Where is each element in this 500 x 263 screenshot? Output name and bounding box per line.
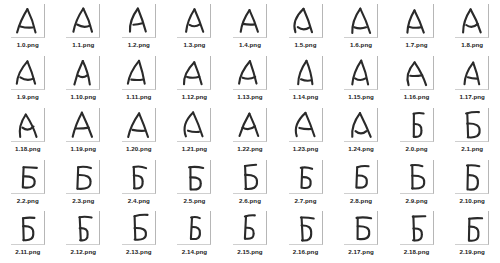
thumbnail-cell[interactable]: 2.8.png — [333, 157, 389, 208]
thumbnail-image[interactable] — [400, 108, 434, 142]
thumbnail-cell[interactable]: 2.13.png — [111, 208, 167, 263]
thumbnail-filename-label: 1.6.png — [350, 41, 372, 49]
thumbnail-cell[interactable]: 2.12.png — [56, 208, 112, 263]
thumbnail-cell[interactable]: 1.4.png — [222, 1, 278, 53]
handwritten-letter-icon — [400, 109, 432, 141]
thumbnail-image[interactable] — [455, 4, 489, 38]
thumbnail-cell[interactable]: 2.14.png — [167, 208, 223, 263]
thumbnail-cell[interactable]: 2.1.png — [444, 105, 500, 157]
thumbnail-cell[interactable]: 1.15.png — [333, 53, 389, 105]
thumbnail-image[interactable] — [11, 108, 45, 142]
thumbnail-image[interactable] — [177, 56, 211, 90]
thumbnail-image[interactable] — [66, 160, 100, 194]
thumbnail-cell[interactable]: 1.24.png — [333, 105, 389, 157]
thumbnail-image[interactable] — [344, 160, 378, 194]
thumbnail-cell[interactable]: 2.18.png — [389, 208, 445, 263]
thumbnail-filename-label: 2.6.png — [239, 197, 261, 205]
thumbnail-cell[interactable]: 2.5.png — [167, 157, 223, 208]
thumbnail-image[interactable] — [177, 211, 211, 245]
thumbnail-image[interactable] — [289, 160, 323, 194]
thumbnail-cell[interactable]: 1.1.png — [56, 1, 112, 53]
thumbnail-image[interactable] — [11, 211, 45, 245]
thumbnail-cell[interactable]: 2.19.png — [444, 208, 500, 263]
handwritten-letter-icon — [178, 5, 210, 37]
thumbnail-cell[interactable]: 2.0.png — [389, 105, 445, 157]
thumbnail-image[interactable] — [11, 4, 45, 38]
thumbnail-image[interactable] — [455, 211, 489, 245]
thumbnail-image[interactable] — [122, 108, 156, 142]
thumbnail-cell[interactable]: 1.23.png — [278, 105, 334, 157]
thumbnail-cell[interactable]: 1.21.png — [167, 105, 223, 157]
thumbnail-image[interactable] — [177, 4, 211, 38]
thumbnail-image[interactable] — [233, 4, 267, 38]
handwritten-letter-icon — [289, 212, 321, 244]
thumbnail-cell[interactable]: 1.14.png — [278, 53, 334, 105]
thumbnail-image[interactable] — [177, 160, 211, 194]
thumbnail-cell[interactable]: 1.2.png — [111, 1, 167, 53]
thumbnail-cell[interactable]: 2.4.png — [111, 157, 167, 208]
thumbnail-cell[interactable]: 1.11.png — [111, 53, 167, 105]
thumbnail-cell[interactable]: 2.17.png — [333, 208, 389, 263]
thumbnail-image[interactable] — [400, 4, 434, 38]
thumbnail-image[interactable] — [289, 211, 323, 245]
thumbnail-image[interactable] — [344, 56, 378, 90]
thumbnail-image[interactable] — [344, 4, 378, 38]
thumbnail-image[interactable] — [344, 211, 378, 245]
thumbnail-cell[interactable]: 1.10.png — [56, 53, 112, 105]
thumbnail-image[interactable] — [455, 108, 489, 142]
thumbnail-cell[interactable]: 1.5.png — [278, 1, 334, 53]
thumbnail-filename-label: 2.14.png — [182, 248, 208, 256]
thumbnail-image[interactable] — [400, 211, 434, 245]
thumbnail-cell[interactable]: 2.10.png — [444, 157, 500, 208]
thumbnail-cell[interactable]: 2.16.png — [278, 208, 334, 263]
thumbnail-image[interactable] — [455, 160, 489, 194]
thumbnail-cell[interactable]: 1.9.png — [0, 53, 56, 105]
thumbnail-cell[interactable]: 1.22.png — [222, 105, 278, 157]
thumbnail-cell[interactable]: 2.7.png — [278, 157, 334, 208]
thumbnail-image[interactable] — [122, 4, 156, 38]
thumbnail-image[interactable] — [122, 56, 156, 90]
handwritten-letter-icon — [289, 161, 321, 193]
thumbnail-image[interactable] — [289, 108, 323, 142]
thumbnail-filename-label: 1.5.png — [295, 41, 317, 49]
thumbnail-cell[interactable]: 1.19.png — [56, 105, 112, 157]
thumbnail-image[interactable] — [66, 4, 100, 38]
thumbnail-image[interactable] — [289, 56, 323, 90]
thumbnail-image[interactable] — [344, 108, 378, 142]
thumbnail-cell[interactable]: 1.3.png — [167, 1, 223, 53]
thumbnail-cell[interactable]: 1.17.png — [444, 53, 500, 105]
thumbnail-image[interactable] — [400, 56, 434, 90]
thumbnail-image[interactable] — [66, 108, 100, 142]
thumbnail-cell[interactable]: 2.9.png — [389, 157, 445, 208]
thumbnail-image[interactable] — [122, 160, 156, 194]
thumbnail-image[interactable] — [289, 4, 323, 38]
thumbnail-cell[interactable]: 2.2.png — [0, 157, 56, 208]
thumbnail-cell[interactable]: 1.16.png — [389, 53, 445, 105]
thumbnail-filename-label: 1.24.png — [348, 145, 374, 153]
thumbnail-image[interactable] — [11, 56, 45, 90]
thumbnail-cell[interactable]: 1.7.png — [389, 1, 445, 53]
thumbnail-cell[interactable]: 1.6.png — [333, 1, 389, 53]
thumbnail-image[interactable] — [400, 160, 434, 194]
thumbnail-cell[interactable]: 2.6.png — [222, 157, 278, 208]
thumbnail-cell[interactable]: 1.13.png — [222, 53, 278, 105]
thumbnail-cell[interactable]: 1.20.png — [111, 105, 167, 157]
thumbnail-cell[interactable]: 1.0.png — [0, 1, 56, 53]
thumbnail-image[interactable] — [233, 108, 267, 142]
thumbnail-image[interactable] — [122, 211, 156, 245]
thumbnail-image[interactable] — [233, 56, 267, 90]
thumbnail-cell[interactable]: 1.12.png — [167, 53, 223, 105]
thumbnail-image[interactable] — [233, 160, 267, 194]
thumbnail-cell[interactable]: 2.15.png — [222, 208, 278, 263]
thumbnail-image[interactable] — [11, 160, 45, 194]
thumbnail-image[interactable] — [66, 56, 100, 90]
thumbnail-image[interactable] — [66, 211, 100, 245]
thumbnail-image[interactable] — [177, 108, 211, 142]
thumbnail-image[interactable] — [233, 211, 267, 245]
thumbnail-cell[interactable]: 1.8.png — [444, 1, 500, 53]
thumbnail-cell[interactable]: 2.11.png — [0, 208, 56, 263]
thumbnail-filename-label: 2.2.png — [17, 197, 39, 205]
thumbnail-cell[interactable]: 1.18.png — [0, 105, 56, 157]
thumbnail-cell[interactable]: 2.3.png — [56, 157, 112, 208]
thumbnail-image[interactable] — [455, 56, 489, 90]
